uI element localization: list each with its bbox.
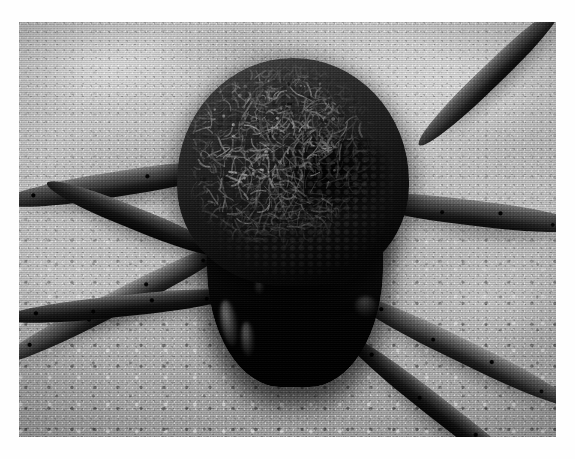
spiderling-highlight: [234, 158, 235, 159]
spiderling-leg: [202, 188, 205, 194]
spiderling-body: [314, 179, 318, 181]
spiderling-body: [217, 164, 221, 168]
spiderling-highlight: [295, 137, 296, 138]
spiderling-leg: [284, 66, 290, 70]
spiderling-body: [280, 171, 284, 174]
spiderling-body: [276, 228, 282, 230]
spiderling-body: [366, 168, 369, 173]
spiderling-body: [319, 201, 324, 206]
spiderling-highlight: [238, 94, 242, 98]
spiderling-body: [294, 112, 300, 115]
spiderling-body: [338, 113, 345, 117]
spiderling-body: [189, 127, 193, 129]
spiderling-leg: [361, 128, 368, 129]
spiderling-leg: [299, 247, 314, 256]
spiderling-body: [286, 71, 290, 73]
spiderling-leg: [303, 226, 310, 228]
spiderling-body: [339, 175, 344, 178]
spiderling-leg: [267, 201, 271, 204]
spiderling-body: [224, 93, 231, 97]
spiderling-leg: [308, 101, 314, 102]
spiderling-body: [245, 240, 252, 242]
spiderling-leg: [373, 170, 378, 173]
spiderling-leg: [312, 193, 327, 195]
spiderling-body: [203, 136, 209, 138]
spiderling-body: [244, 136, 246, 140]
spiderling-body: [245, 145, 252, 148]
spiderling-leg: [231, 157, 235, 174]
spiderling-highlight: [275, 116, 278, 119]
spiderling-body: [271, 140, 278, 142]
spiderling-leg: [382, 129, 395, 136]
spiderling-body: [355, 110, 360, 115]
spiderling-body: [303, 159, 310, 161]
spiderling-leg: [279, 255, 291, 265]
spiderling-leg: [336, 184, 344, 188]
spiderling-body: [353, 100, 357, 105]
spiderling-body: [224, 177, 230, 183]
spiderling-leg: [357, 87, 358, 98]
spiderling-leg: [256, 59, 266, 67]
spiderling-leg: [246, 241, 248, 247]
spiderling-body: [250, 227, 257, 232]
spiderling-leg: [386, 117, 389, 130]
spiderling-body: [205, 118, 211, 121]
spiderling-leg: [193, 188, 196, 202]
spiderling-leg: [395, 164, 401, 168]
spiderling-leg: [283, 77, 288, 87]
spiderling-leg: [383, 150, 388, 151]
spiderling-leg: [195, 171, 196, 178]
spiderling-body: [313, 186, 316, 188]
spiderling-body: [329, 215, 336, 218]
spiderling-body: [263, 78, 266, 84]
spiderling-body: [280, 114, 283, 117]
spiderling-highlight: [264, 150, 268, 154]
spider-photograph: [19, 22, 556, 437]
spiderling-leg: [368, 123, 376, 125]
spiderling-highlight: [213, 85, 217, 89]
spiderling-leg: [290, 137, 295, 140]
spiderling-leg: [376, 124, 389, 125]
spiderling-leg: [368, 177, 378, 184]
spiderling-body: [230, 78, 235, 81]
spiderling-highlight: [304, 86, 305, 87]
spiderling-body: [278, 207, 284, 211]
spiderling-leg: [245, 168, 250, 175]
spiderling-body: [274, 83, 281, 88]
spiderling-leg: [358, 163, 373, 173]
spiderling-body: [326, 99, 331, 102]
spiderling-leg: [369, 134, 374, 139]
spiderling-leg: [180, 116, 192, 124]
spiderling-leg: [321, 74, 326, 76]
spiderling-leg: [345, 66, 352, 82]
spiderling-leg: [194, 167, 200, 169]
spiderling-leg: [358, 79, 363, 87]
spiderling-leg: [271, 217, 274, 225]
spiderling-body: [256, 170, 258, 172]
spiderling-leg: [366, 173, 368, 179]
spiderling-body: [290, 199, 295, 203]
spiderling-body: [354, 162, 359, 166]
spiderling-body: [238, 233, 243, 238]
spiderling-body: [317, 235, 321, 238]
spiderling-leg: [295, 243, 303, 258]
spiderling-body: [303, 144, 308, 148]
spiderling-highlight: [260, 169, 263, 172]
spiderling-leg: [217, 195, 218, 203]
spiderling-body: [230, 222, 233, 228]
spiderling-leg: [348, 179, 352, 192]
page-canvas: [0, 0, 575, 459]
spiderling-highlight: [232, 135, 235, 138]
spiderling-highlight: [325, 103, 327, 105]
spiderling-leg: [397, 134, 401, 138]
spiderling-leg: [221, 84, 233, 92]
spiderling-leg: [210, 103, 216, 104]
spiderling-leg: [252, 121, 257, 122]
spiderling-leg: [345, 93, 351, 94]
spiderling-body: [278, 150, 283, 155]
spiderling-body: [309, 122, 312, 125]
spiderling-body: [205, 153, 208, 158]
spiderling-body: [190, 134, 195, 139]
spiderling-body: [204, 95, 207, 98]
spiderling-highlight: [232, 123, 235, 126]
